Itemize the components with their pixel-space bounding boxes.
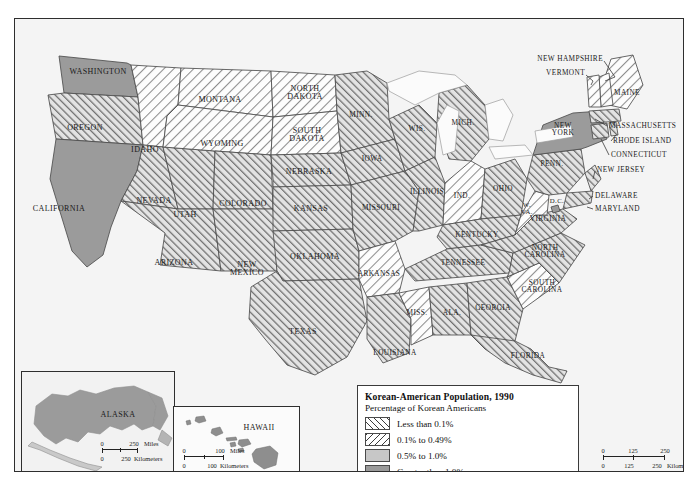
alaska-scale-km-unit: Kilometers: [134, 455, 162, 462]
state-MN: [335, 71, 395, 153]
main-scale-tick-1: 125: [628, 447, 638, 454]
state-AR: [359, 241, 405, 297]
alaska-scale-tick-1: 250: [129, 440, 139, 447]
main-scale-tick-2: 250: [660, 447, 670, 454]
legend-label-p01049: 0.1% to 0.49%: [397, 435, 452, 445]
legend-swatch-lt01: [365, 417, 390, 430]
main-scale-km-0: 0: [601, 462, 604, 469]
map-figure: WASHINGTON OREGON CALIFORNIA IDAHO NEVAD…: [0, 0, 696, 491]
state-OR: [48, 93, 143, 145]
legend-row-p01049: 0.1% to 0.49%: [365, 432, 571, 447]
legend-row-gt10: Greater than 1.0%: [365, 464, 571, 472]
legend-row-p0510: 0.5% to 1.0%: [365, 448, 571, 463]
legend-subtitle: Percentage of Korean Americans: [365, 403, 571, 413]
state-SD: [271, 111, 341, 155]
state-PA: [527, 149, 585, 195]
legend-row-lt01: Less than 0.1%: [365, 416, 571, 431]
state-VT: [587, 75, 601, 107]
map-neatline-frame: WASHINGTON OREGON CALIFORNIA IDAHO NEVAD…: [14, 18, 684, 472]
state-TX: [249, 271, 367, 375]
alaska-scale-miles-unit: Miles: [144, 440, 159, 447]
hawaii-scale-km-1: 100: [207, 462, 217, 469]
island-niihau: [186, 420, 191, 425]
state-MD: [563, 191, 593, 209]
legend-label-lt01: Less than 0.1%: [397, 419, 453, 429]
state-TN: [405, 245, 513, 281]
hawaii-inset: HAWAII 0 100 Miles 0 100 Kilometers: [173, 406, 300, 472]
alaska-scale-km-0: 0: [100, 455, 103, 462]
state-KS: [273, 185, 353, 231]
legend-label-gt10: Greater than 1.0%: [397, 467, 464, 473]
state-DC: [551, 205, 560, 213]
state-AZ: [121, 201, 221, 271]
state-CT: [591, 123, 609, 139]
state-AL: [429, 283, 471, 335]
state-FL: [471, 335, 567, 383]
legend-swatch-gt10: [365, 465, 390, 472]
alaska-scale-bar: 0 250 Miles 0 250 Kilometers: [100, 440, 168, 463]
state-OK: [273, 229, 359, 281]
hawaii-scale-tick-1: 100: [215, 447, 225, 454]
alaska-scale-tick-0: 0: [100, 440, 103, 447]
alaska-inset: ALASKA 0 250 Miles 0 250 Kilometers: [21, 371, 175, 472]
main-scale-km-1: 125: [624, 462, 634, 469]
state-OH: [481, 159, 527, 219]
state-WA: [59, 56, 138, 97]
hawaii-scale-km-unit: Kilometers: [220, 462, 248, 469]
main-scale-miles-unit: Miles: [683, 447, 684, 454]
main-scale-km-unit: Kilometers: [667, 462, 684, 469]
state-NJ: [585, 165, 601, 191]
legend-swatch-p01049: [365, 433, 390, 446]
lake-huron-erie: [485, 99, 513, 141]
alaska-scale-km-1: 250: [121, 455, 131, 462]
main-scale-km-2: 250: [652, 462, 662, 469]
hawaii-scale-bar: 0 100 Miles 0 100 Kilometers: [182, 447, 262, 470]
main-scale-bar: 0 125 250 Miles 0 125 250 Kilometers: [601, 447, 684, 470]
main-scale-tick-0: 0: [601, 447, 604, 454]
state-NE: [271, 153, 351, 187]
state-ND: [271, 71, 337, 117]
state-RI: [609, 122, 618, 136]
state-MO: [351, 171, 419, 251]
state-NM: [213, 209, 277, 271]
legend-swatch-p0510: [365, 449, 390, 462]
island-molokai: [226, 437, 237, 441]
hawaii-scale-miles-unit: Miles: [230, 447, 245, 454]
hawaii-scale-km-0: 0: [182, 462, 185, 469]
hawaii-scale-tick-0: 0: [182, 447, 185, 454]
map-legend: Korean-American Population, 1990 Percent…: [357, 385, 579, 472]
legend-title: Korean-American Population, 1990: [365, 391, 571, 402]
state-IN: [443, 161, 485, 225]
state-CO: [213, 151, 273, 209]
legend-label-p0510: 0.5% to 1.0%: [397, 451, 447, 461]
lake-erie: [489, 145, 533, 159]
state-MA: [589, 109, 621, 123]
